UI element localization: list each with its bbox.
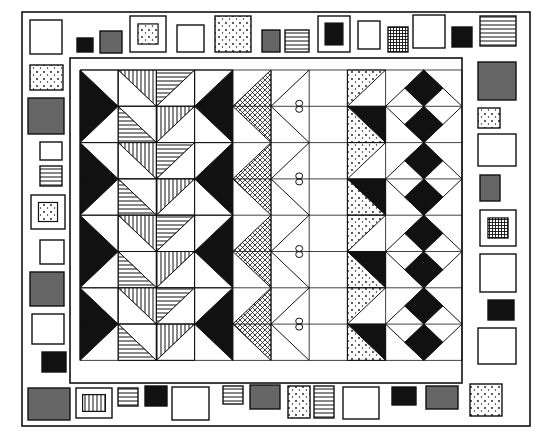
patch-bottom (223, 386, 243, 404)
patch-left (40, 240, 64, 264)
patch-top (215, 16, 251, 52)
patch-right (480, 254, 516, 292)
patch-top (388, 27, 408, 52)
patch-right (478, 62, 516, 100)
patch-right (478, 134, 516, 166)
patch-top (177, 25, 204, 52)
patch-right (478, 108, 500, 128)
patch-bottom (314, 386, 334, 418)
patch-bottom (145, 386, 167, 406)
patch-inner (325, 23, 343, 45)
center-panel (80, 70, 462, 360)
patch-top (285, 30, 309, 52)
quilt-illustration (0, 0, 536, 436)
patch-left (30, 272, 64, 306)
patch-bottom (470, 384, 502, 416)
patch-bottom (288, 386, 310, 418)
patch-top (358, 21, 380, 49)
patch-right (480, 175, 500, 201)
patch-inner (138, 24, 158, 44)
patch-inner (83, 395, 106, 412)
patch-left (40, 166, 62, 186)
patch-bottom (28, 388, 70, 420)
patch-inner (488, 218, 508, 238)
patch-left (40, 142, 62, 160)
patch-left (42, 352, 66, 372)
patch-right (488, 300, 514, 320)
patch-bottom (172, 387, 209, 420)
patch-top (262, 30, 280, 52)
patch-left (30, 65, 63, 90)
patch-right (478, 328, 516, 364)
patch-top (77, 38, 93, 52)
patch-bottom (343, 387, 379, 419)
patch-bottom (118, 388, 138, 406)
patch-top (413, 15, 445, 48)
patch-inner (38, 202, 57, 221)
patch-bottom (250, 385, 280, 409)
patch-top (480, 16, 516, 46)
patch-bottom (392, 387, 416, 405)
patch-top (100, 31, 122, 53)
patch-left (28, 98, 64, 134)
patch-left (32, 314, 64, 344)
patch-top (30, 20, 62, 54)
patch-bottom (426, 386, 458, 409)
patch-top (452, 27, 472, 47)
